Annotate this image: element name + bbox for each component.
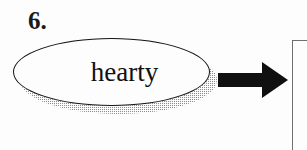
answer-box[interactable] bbox=[292, 40, 307, 150]
oval-word-label: hearty bbox=[13, 38, 210, 106]
right-arrow-icon bbox=[218, 60, 290, 100]
word-oval-group: hearty bbox=[8, 36, 224, 120]
worksheet-item-diagram: 6. hearty bbox=[0, 0, 307, 150]
item-number-label: 6. bbox=[28, 8, 47, 34]
